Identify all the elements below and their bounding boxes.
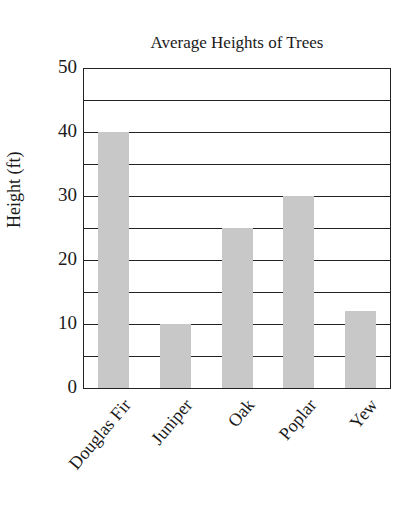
bar-juniper xyxy=(160,324,191,388)
bar-yew xyxy=(345,311,376,388)
y-tick-label: 30 xyxy=(37,184,77,206)
plot-area xyxy=(83,68,391,389)
x-tick-label: Oak xyxy=(224,395,259,431)
y-tick-label: 10 xyxy=(37,312,77,334)
y-tick-label: 0 xyxy=(37,376,77,398)
x-tick-label: Poplar xyxy=(274,395,320,445)
y-axis-label: Height (ft) xyxy=(4,152,25,228)
gridline xyxy=(84,196,390,197)
chart-title: Average Heights of Trees xyxy=(83,33,391,53)
y-tick-label: 20 xyxy=(37,248,77,270)
x-tick-label: Juniper xyxy=(147,395,197,449)
bar-poplar xyxy=(283,196,314,388)
y-tick-label: 40 xyxy=(37,120,77,142)
x-tick-label: Yew xyxy=(346,395,383,433)
gridline xyxy=(84,164,390,165)
y-tick-label: 50 xyxy=(37,56,77,78)
gridline xyxy=(84,132,390,133)
x-tick-label: Douglas Fir xyxy=(65,395,136,474)
bar-oak xyxy=(222,228,253,388)
bar-douglas-fir xyxy=(98,132,129,388)
gridline xyxy=(84,100,390,101)
